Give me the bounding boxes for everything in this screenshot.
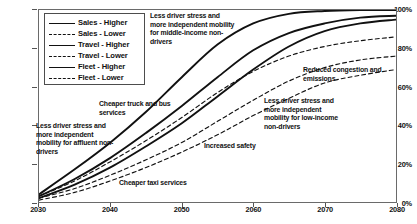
y-tick-mark xyxy=(32,203,37,204)
y-tick-mark xyxy=(32,48,37,49)
chart-legend: Sales - Higher Sales - Lower Travel - Hi… xyxy=(44,13,145,85)
y-tick-mark xyxy=(32,87,37,88)
x-tick-mark xyxy=(253,203,254,207)
legend-label: Fleet - Higher xyxy=(78,62,125,71)
annotation-truck-bus: Cheaper truck and bus services xyxy=(99,100,171,117)
x-tick-mark xyxy=(110,203,111,207)
legend-item-travel-lower: Travel - Lower xyxy=(49,50,140,61)
legend-label: Sales - Lower xyxy=(78,29,126,38)
legend-label: Fleet - Lower xyxy=(78,73,124,82)
x-tick-mark xyxy=(182,203,183,207)
legend-item-sales-higher: Sales - Higher xyxy=(49,17,140,28)
annotation-affluent: Less driver stress and more independent … xyxy=(36,122,120,156)
x-tick-mark xyxy=(38,203,39,207)
legend-line-dashed-icon xyxy=(49,52,75,60)
annotation-congestion: Reduced congestion and emissions xyxy=(303,66,395,83)
y-tick-mark xyxy=(32,164,37,165)
annotation-safety: Increased safety xyxy=(204,142,268,151)
legend-item-sales-lower: Sales - Lower xyxy=(49,28,140,39)
annotation-low-income: Less driver stress and more independent … xyxy=(264,97,344,131)
legend-item-fleet-lower: Fleet - Lower xyxy=(49,72,140,83)
x-tick-mark xyxy=(325,203,326,207)
legend-item-fleet-higher: Fleet - Higher xyxy=(49,61,140,72)
legend-line-solid-icon xyxy=(49,41,75,49)
legend-label: Travel - Higher xyxy=(78,40,129,49)
legend-line-solid-icon xyxy=(49,63,75,71)
y-tick-mark xyxy=(32,9,37,10)
legend-line-dashed-icon xyxy=(49,30,75,38)
legend-item-travel-higher: Travel - Higher xyxy=(49,39,140,50)
legend-line-dashed-icon xyxy=(49,74,75,82)
annotation-middle-income: Less driver stress and more independent … xyxy=(150,12,236,46)
legend-label: Travel - Lower xyxy=(78,51,128,60)
annotation-taxi: Cheaper taxi services xyxy=(119,179,211,188)
legend-line-solid-icon xyxy=(49,19,75,27)
legend-label: Sales - Higher xyxy=(78,18,127,27)
x-tick-mark xyxy=(397,203,398,207)
